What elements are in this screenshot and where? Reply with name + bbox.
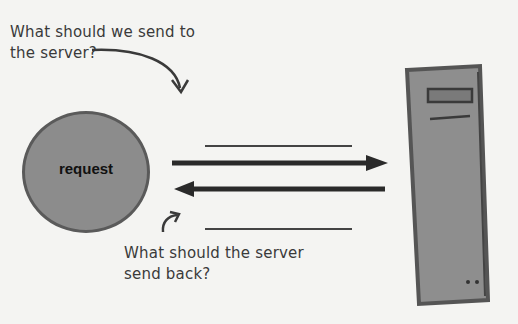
server-icon	[407, 66, 488, 304]
request-label: request	[25, 160, 147, 177]
request-node: request	[22, 111, 150, 233]
bottom-question-line-2: send back?	[124, 264, 304, 285]
hook-arrow-icon	[163, 215, 177, 232]
curved-arrow-icon	[92, 50, 180, 88]
bottom-question-annotation: What should the server send back?	[124, 243, 304, 285]
bottom-question-line-1: What should the server	[124, 243, 304, 264]
